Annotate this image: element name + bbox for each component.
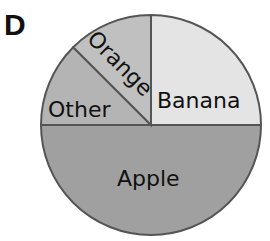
pie-chart: Banana Orange Other Apple: [0, 0, 270, 241]
label-banana: Banana: [157, 88, 240, 113]
label-apple: Apple: [117, 166, 180, 191]
label-other: Other: [48, 97, 111, 122]
